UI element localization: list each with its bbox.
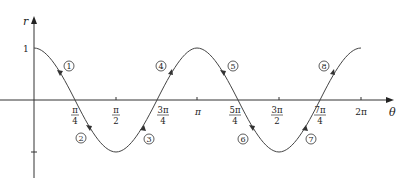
svg-text:2: 2 — [274, 116, 279, 126]
tick-label-2pi: 2π — [355, 107, 367, 117]
segment-label-8: 8 — [321, 62, 326, 71]
segment-label-5: 5 — [230, 62, 235, 71]
y-axis: r 1 — [23, 15, 37, 178]
tick-label-pi-over-4: π 4 — [71, 105, 79, 126]
y-axis-label: r — [23, 15, 29, 28]
svg-text:π: π — [113, 105, 119, 115]
y-axis-arrow-icon — [31, 16, 37, 24]
svg-text:4: 4 — [72, 116, 77, 126]
svg-text:3π: 3π — [272, 105, 283, 115]
polar-rose-cartesian-graph: θ r 1 π 4 π 2 3π 4 π 5π 4 3π — [0, 0, 418, 182]
arrow-icon-seg7 — [302, 125, 308, 131]
tick-label-pi: π — [194, 107, 202, 117]
y-tick-label-1: 1 — [23, 44, 29, 54]
svg-text:π: π — [194, 107, 202, 117]
svg-text:5π: 5π — [230, 105, 241, 115]
x-axis-arrow-icon — [386, 97, 394, 103]
svg-text:2π: 2π — [355, 107, 367, 117]
tick-label-3pi-over-4: 3π 4 — [157, 105, 169, 126]
tick-label-pi-over-2: π 2 — [112, 105, 120, 126]
tick-label-3pi-over-2: 3π 2 — [271, 105, 283, 126]
segment-label-2: 2 — [78, 134, 83, 143]
segment-label-6: 6 — [240, 135, 245, 144]
segment-label-3: 3 — [146, 135, 151, 144]
svg-text:4: 4 — [160, 116, 165, 126]
segment-labels: 1 2 3 4 5 6 7 8 — [64, 61, 329, 144]
segment-label-1: 1 — [66, 62, 71, 71]
svg-text:3π: 3π — [158, 105, 169, 115]
svg-text:4: 4 — [317, 116, 322, 126]
arrow-icon-seg8 — [330, 69, 335, 75]
svg-text:2: 2 — [113, 116, 118, 126]
x-axis-label: θ — [389, 106, 396, 119]
arrow-icon-seg4 — [168, 69, 173, 75]
tick-label-5pi-over-4: 5π 4 — [229, 105, 241, 126]
segment-label-4: 4 — [158, 62, 163, 71]
svg-text:4: 4 — [232, 116, 237, 126]
segment-label-7: 7 — [308, 135, 313, 144]
svg-text:π: π — [72, 105, 78, 115]
